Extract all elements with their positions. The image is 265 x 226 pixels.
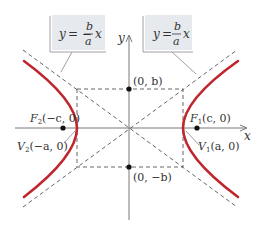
label-vertex-left: V2(−a, 0) xyxy=(17,140,68,154)
point-top xyxy=(126,86,131,91)
equals: = xyxy=(162,27,172,41)
asymptotes xyxy=(23,50,237,207)
leader-line xyxy=(61,52,72,72)
point-bottom xyxy=(126,164,131,169)
fraction-denominator: a xyxy=(85,35,92,48)
right-branch xyxy=(183,61,238,197)
focus-right xyxy=(194,125,199,130)
fraction-numerator: b xyxy=(174,20,181,33)
focus-left xyxy=(60,125,65,130)
leader-line xyxy=(172,52,196,74)
fraction-denominator: a xyxy=(173,35,180,48)
label-focus-right: F1(c, 0) xyxy=(189,112,231,126)
y-var: y xyxy=(58,27,66,41)
x-var: x xyxy=(95,27,102,41)
left-branch xyxy=(24,61,77,197)
label-vertex-right: V1(a, 0) xyxy=(198,140,240,154)
x-var: x xyxy=(183,27,190,41)
y-var: y xyxy=(152,27,160,41)
right-asymptote-label: y = b a x xyxy=(143,15,196,74)
label-focus-left: F2(−c, 0) xyxy=(29,112,80,126)
left-asymptote-label: y = − b a x xyxy=(50,15,106,72)
y-axis-label: y xyxy=(117,31,125,45)
fraction-numerator: b xyxy=(86,20,93,33)
label-bottom-point: (0, −b) xyxy=(133,171,172,184)
svg-text:y: y xyxy=(58,27,66,41)
x-axis-label: x xyxy=(244,129,251,143)
label-top-point: (0, b) xyxy=(133,75,163,88)
hyperbola-diagram: y = − b a x y = b a x x y xyxy=(0,0,265,226)
